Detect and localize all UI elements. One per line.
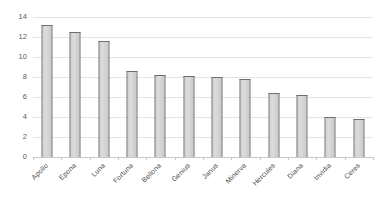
y-tick-label: 12 — [18, 33, 27, 41]
bar-slot — [260, 17, 288, 157]
bar-fortuna[interactable] — [127, 71, 138, 157]
bar-apollo[interactable] — [42, 25, 53, 157]
bar-ceres[interactable] — [353, 119, 364, 157]
y-tick-label: 0 — [23, 153, 27, 161]
x-tick-label-text: Diana — [286, 162, 304, 180]
x-label-slot: Genius — [175, 161, 203, 201]
y-tick-label: 8 — [23, 73, 27, 81]
y-tick-label: 10 — [18, 53, 27, 61]
bar-luna[interactable] — [98, 41, 109, 157]
x-label-slot: Diana — [288, 161, 316, 201]
x-label-slot: Ceres — [345, 161, 373, 201]
bar-slot — [175, 17, 203, 157]
bar-slot — [288, 17, 316, 157]
bar-slot — [90, 17, 118, 157]
x-tick-label-text: Janus — [201, 162, 220, 181]
x-axis: ApolloEponaLunaFortunaBellonaGeniusJanus… — [33, 157, 373, 203]
x-tick — [118, 157, 119, 160]
bar-slot — [231, 17, 259, 157]
x-tick — [373, 157, 374, 160]
bar-slot — [146, 17, 174, 157]
bar-slot — [118, 17, 146, 157]
bar-minerva[interactable] — [240, 79, 251, 157]
bar-slot — [33, 17, 61, 157]
x-label-slot: Apollo — [33, 161, 61, 201]
bar-invidia[interactable] — [325, 117, 336, 157]
x-tick — [316, 157, 317, 160]
y-tick-label: 14 — [18, 13, 27, 21]
bar-epona[interactable] — [70, 32, 81, 157]
x-tick — [345, 157, 346, 160]
y-axis: 02468101214 — [0, 0, 33, 203]
x-tick-label-text: Invidia — [313, 162, 333, 182]
x-tick — [33, 157, 34, 160]
bar-hercules[interactable] — [268, 93, 279, 157]
x-tick-label-text: Epona — [58, 162, 78, 182]
bar-slot — [203, 17, 231, 157]
x-label-slot: Invidia — [316, 161, 344, 201]
x-tick-label-text: Ceres — [343, 162, 362, 181]
bar-slot — [61, 17, 89, 157]
bars-layer — [33, 17, 373, 157]
x-tick-label-text: Luna — [90, 162, 106, 178]
bar-diana[interactable] — [297, 95, 308, 157]
x-tick-label-text: Apollo — [30, 162, 49, 181]
bar-genius[interactable] — [183, 76, 194, 157]
x-tick — [175, 157, 176, 160]
x-tick — [260, 157, 261, 160]
bar-bellona[interactable] — [155, 75, 166, 157]
y-tick-label: 2 — [23, 133, 27, 141]
x-tick — [90, 157, 91, 160]
y-tick-label: 4 — [23, 113, 27, 121]
bar-chart: 02468101214 ApolloEponaLunaFortunaBellon… — [0, 0, 381, 203]
x-tick — [231, 157, 232, 160]
x-label-slot: Bellona — [146, 161, 174, 201]
x-tick — [203, 157, 204, 160]
bar-janus[interactable] — [212, 77, 223, 157]
bar-slot — [345, 17, 373, 157]
y-tick-label: 6 — [23, 93, 27, 101]
x-label-slot: Hercules — [260, 161, 288, 201]
bar-slot — [316, 17, 344, 157]
x-tick — [61, 157, 62, 160]
x-label-slot: Epona — [61, 161, 89, 201]
x-tick — [288, 157, 289, 160]
x-tick — [146, 157, 147, 160]
